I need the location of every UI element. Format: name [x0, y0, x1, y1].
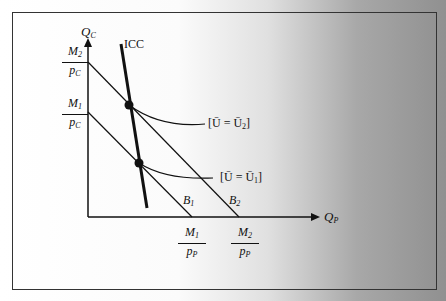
indifference-curve-u1 [139, 163, 213, 178]
y-intercept-m2: M2 pC [62, 44, 88, 81]
equilibrium-point-1 [135, 159, 144, 168]
x-intercept-m2: M2 pP [231, 225, 259, 262]
equilibrium-point-2 [125, 101, 134, 110]
budget-label-b2: B2 [229, 193, 240, 208]
y-axis-label: QC [81, 24, 96, 40]
indifference-label-u2: [Ū = Ū2] [208, 116, 250, 131]
x-intercept-m1: M1 pP [178, 225, 206, 262]
indifference-label-u1: [Ū = Ū1] [220, 170, 262, 185]
icc-curve [121, 44, 147, 208]
x-axis-label: QP [324, 209, 338, 225]
indifference-curve-u2 [129, 105, 205, 125]
budget-label-b1: B1 [183, 193, 194, 208]
icc-label: ICC [124, 37, 144, 52]
budget-line-b2 [88, 62, 239, 217]
x-axis-arrow-icon [311, 213, 320, 221]
y-intercept-m1: M1 pC [62, 96, 88, 133]
